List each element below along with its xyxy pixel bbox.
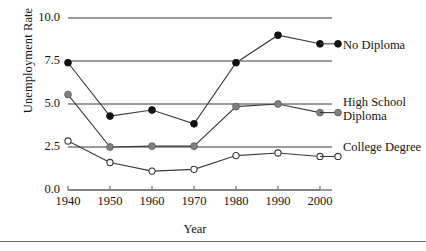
data-point-marker [233, 59, 240, 66]
data-point-marker [275, 32, 282, 39]
data-point-marker [107, 144, 114, 151]
data-point-marker [149, 107, 156, 114]
x-tick-label: 1960 [129, 194, 175, 209]
data-point-marker [275, 101, 282, 108]
x-tick-label: 1950 [87, 194, 133, 209]
series-label-marker [335, 153, 341, 159]
series-label-high-school-diploma: High School Diploma [343, 95, 406, 123]
x-tick-label: 1940 [45, 194, 91, 209]
data-point-marker [191, 120, 198, 127]
series-line [68, 35, 320, 124]
data-point-marker [275, 150, 281, 156]
x-axis-title: Year [150, 222, 240, 237]
x-tick-label: 1990 [255, 194, 301, 209]
footer-rule [0, 241, 426, 242]
data-point-marker [107, 113, 114, 120]
data-point-marker [149, 143, 156, 150]
data-point-marker [233, 153, 239, 159]
series-label-marker [335, 109, 342, 116]
data-point-marker [233, 103, 240, 110]
data-point-marker [65, 59, 72, 66]
data-point-marker [191, 166, 197, 172]
data-point-marker [191, 143, 198, 150]
series-label-no-diploma: No Diploma [343, 38, 405, 52]
x-tick-label: 1970 [171, 194, 217, 209]
data-point-marker [107, 159, 113, 165]
data-point-marker [65, 91, 72, 98]
x-tick-label: 2000 [297, 194, 343, 209]
x-tick-label: 1980 [213, 194, 259, 209]
data-point-marker [149, 168, 155, 174]
data-point-marker [65, 138, 71, 144]
unemployment-rate-line-chart: Unemployment Rate 10.0 7.5 5.0 2.5 0.0 1… [0, 0, 426, 251]
series-label-marker [335, 40, 342, 47]
series-label-college-degree: College Degree [343, 140, 421, 154]
